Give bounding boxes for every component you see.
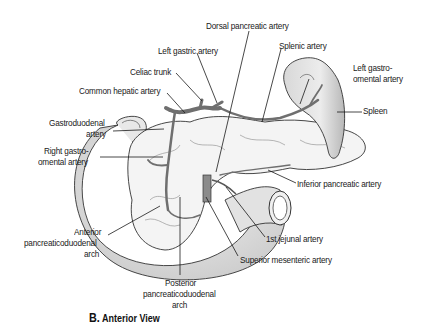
label-left-gastric-artery: Left gastric artery [158,46,218,57]
label-anterior-pd-arch-line2: pancreaticoduodenal [24,238,97,249]
label-right-gastroomental-artery-line1: Right gastro- [44,146,89,157]
label-first-jejunal-artery: 1st jejunal artery [266,234,323,245]
label-anterior-pd-arch-line3: arch [84,249,99,260]
caption-letter: B. [89,311,100,325]
label-gastroduodenal-artery-line1: Gastroduodenal [49,118,105,129]
label-celiac-trunk: Celiac trunk [130,67,171,78]
figure-caption: B. Anterior View [89,311,160,325]
label-common-hepatic-artery: Common hepatic artery [79,86,160,97]
caption-text: Anterior View [102,313,160,324]
label-superior-mesenteric-artery: Superior mesenteric artery [240,255,332,266]
anatomy-figure: Dorsal pancreatic artery Left gastric ar… [0,0,427,328]
label-posterior-pd-arch-line1: Posterior [165,278,196,289]
label-posterior-pd-arch-line2: pancreaticoduodenal [143,289,216,300]
label-posterior-pd-arch-line3: arch [172,300,187,311]
label-anterior-pd-arch-line1: Anterior [74,227,101,238]
label-left-gastroomental-artery-line1: Left gastro- [353,63,392,74]
label-splenic-artery: Splenic artery [279,41,327,52]
label-right-gastroomental-artery-line2: omental artery [38,157,88,168]
label-left-gastroomental-artery-line2: omental artery [353,74,403,85]
label-gastroduodenal-artery-line2: artery [86,129,106,140]
label-dorsal-pancreatic-artery: Dorsal pancreatic artery [206,21,289,32]
label-inferior-pancreatic-artery: Inferior pancreatic artery [297,179,381,190]
label-spleen: Spleen [363,106,387,117]
